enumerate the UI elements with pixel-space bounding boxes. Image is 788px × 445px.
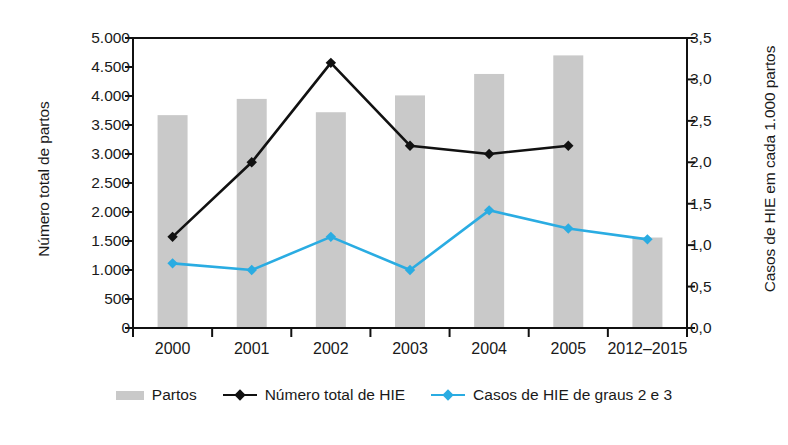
legend-line-diamond-swatch-icon — [431, 389, 465, 401]
x-axis-tick-label: 2012–2015 — [607, 340, 687, 358]
y-axis-left-tick-label: 5.000 — [60, 30, 130, 46]
y-axis-left-tick-label: 2.000 — [60, 204, 130, 220]
y-axis-left-tick-label: 500 — [60, 291, 130, 307]
legend-label: Número total de HIE — [265, 386, 405, 404]
chart-container: Número total de partos Casos de HIE em c… — [0, 0, 788, 445]
line-n-mero-total-de-hie — [173, 63, 569, 237]
y-axis-left-tick-label: 3.000 — [60, 146, 130, 162]
bar-partos — [158, 115, 188, 328]
chart-legend: PartosNúmero total de HIECasos de HIE de… — [0, 386, 788, 404]
y-axis-left-ticks: 05001.0001.5002.0002.5003.0003.5004.0004… — [60, 0, 130, 445]
x-axis-tick-label: 2003 — [392, 340, 428, 358]
y-axis-left-tick-label: 0 — [60, 320, 130, 336]
bar-partos — [237, 99, 267, 328]
y-axis-right-tick-label: 2,0 — [690, 154, 760, 170]
legend-line-diamond-swatch-icon — [223, 389, 257, 401]
y-axis-right-tick-label: 2,5 — [690, 113, 760, 129]
y-axis-right-ticks: 0,00,51,01,52,02,53,03,5 — [690, 0, 760, 445]
y-axis-right-tick-label: 1,0 — [690, 237, 760, 253]
y-axis-left-tick-label: 3.500 — [60, 117, 130, 133]
legend-item[interactable]: Casos de HIE de graus 2 e 3 — [431, 386, 672, 404]
legend-item[interactable]: Partos — [116, 386, 197, 404]
y-axis-right-tick-label: 1,5 — [690, 196, 760, 212]
y-axis-right-title: Casos de HIE em cada 1.000 partos — [761, 19, 779, 319]
legend-label: Partos — [152, 386, 197, 404]
x-axis-tick-label: 2001 — [234, 340, 270, 358]
x-axis-tick-label: 2002 — [313, 340, 349, 358]
bar-partos — [316, 112, 346, 328]
y-axis-left-tick-label: 1.000 — [60, 262, 130, 278]
y-axis-left-tick-label: 4.000 — [60, 88, 130, 104]
legend-label: Casos de HIE de graus 2 e 3 — [473, 386, 672, 404]
y-axis-left-tick-label: 4.500 — [60, 59, 130, 75]
y-axis-right-tick-label: 3,5 — [690, 30, 760, 46]
bar-partos — [553, 55, 583, 328]
y-axis-right-tick-label: 3,0 — [690, 71, 760, 87]
bar-partos — [474, 74, 504, 328]
bar-partos — [632, 238, 662, 328]
legend-bar-swatch-icon — [116, 391, 144, 400]
legend-item[interactable]: Número total de HIE — [223, 386, 405, 404]
y-axis-left-tick-label: 2.500 — [60, 175, 130, 191]
x-axis-tick-label: 2004 — [471, 340, 507, 358]
y-axis-left-title: Número total de partos — [35, 49, 53, 309]
y-axis-left-tick-label: 1.500 — [60, 233, 130, 249]
x-axis-tick-label: 2005 — [550, 340, 586, 358]
y-axis-right-tick-label: 0,0 — [690, 320, 760, 336]
legend-diamond-marker-icon — [234, 389, 245, 400]
x-axis-tick-label: 2000 — [155, 340, 191, 358]
y-axis-right-tick-label: 0,5 — [690, 279, 760, 295]
legend-diamond-marker-icon — [442, 389, 453, 400]
bar-partos — [395, 95, 425, 328]
